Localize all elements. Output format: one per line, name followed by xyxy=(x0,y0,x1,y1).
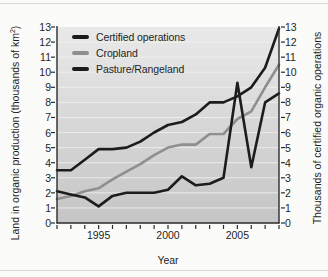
right-tick-label: 13 xyxy=(285,21,302,33)
left-tick-label: 12 xyxy=(34,36,51,48)
left-tick-label: 5 xyxy=(34,142,51,154)
pasture-rangeland-line-swatch xyxy=(72,67,89,71)
chart-legend: Certified operations Cropland Pasture/Ra… xyxy=(72,29,185,77)
left-tick-label: 11 xyxy=(34,51,51,63)
cropland-line-swatch xyxy=(72,51,89,55)
left-tick-label: 1 xyxy=(34,202,51,214)
left-tick-label: 0 xyxy=(34,217,51,229)
x-tick-label: 1995 xyxy=(82,229,116,241)
left-axis-title-superscript: 2 xyxy=(9,29,16,33)
legend-label: Pasture/Rangeland xyxy=(96,63,184,75)
legend-label: Certified operations xyxy=(96,31,185,43)
right-tick-label: 2 xyxy=(285,187,302,199)
right-tick-label: 1 xyxy=(285,202,302,214)
left-tick-label: 4 xyxy=(34,157,51,169)
left-tick-label: 3 xyxy=(34,172,51,184)
left-tick-label: 2 xyxy=(34,187,51,199)
right-tick-label: 3 xyxy=(285,172,302,184)
left-tick-label: 8 xyxy=(34,96,51,108)
left-tick-label: 6 xyxy=(34,127,51,139)
right-tick-label: 5 xyxy=(285,142,302,154)
left-tick-label: 13 xyxy=(34,21,51,33)
certified-operations-line-swatch xyxy=(72,35,89,39)
left-axis-title-text: Land in organic production (thousands of… xyxy=(9,33,21,240)
legend-item-pasture-rangeland: Pasture/Rangeland xyxy=(72,61,185,77)
right-tick-label: 6 xyxy=(285,127,302,139)
right-tick-label: 0 xyxy=(285,217,302,229)
right-tick-label: 11 xyxy=(285,51,302,63)
legend-label: Cropland xyxy=(96,47,138,59)
left-axis-title: Land in organic production (thousands of… xyxy=(9,26,21,241)
x-tick-label: 2000 xyxy=(151,229,185,241)
left-tick-label: 7 xyxy=(34,111,51,123)
right-tick-label: 4 xyxy=(285,157,302,169)
left-axis-title-close: ) xyxy=(9,26,21,30)
right-tick-label: 9 xyxy=(285,81,302,93)
x-tick-label: 2005 xyxy=(220,229,254,241)
right-axis-title: Thousands of certified organic operation… xyxy=(311,32,323,225)
legend-item-certified-operations: Certified operations xyxy=(72,29,185,45)
right-tick-label: 12 xyxy=(285,36,302,48)
figure-canvas: 012345678910111213 012345678910111213 19… xyxy=(0,0,328,277)
right-tick-label: 7 xyxy=(285,111,302,123)
left-tick-label: 10 xyxy=(34,66,51,78)
left-tick-label: 9 xyxy=(34,81,51,93)
x-axis-title: Year xyxy=(140,254,196,266)
right-tick-label: 10 xyxy=(285,66,302,78)
legend-item-cropland: Cropland xyxy=(72,45,185,61)
right-tick-label: 8 xyxy=(285,96,302,108)
